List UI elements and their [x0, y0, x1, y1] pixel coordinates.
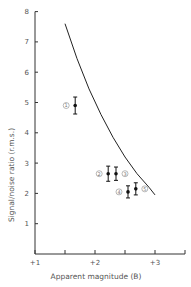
data-point-4: 4	[116, 186, 130, 198]
svg-text:2: 2	[98, 171, 101, 177]
data-points: 12345	[63, 97, 148, 198]
y-tick-label: 8	[25, 8, 29, 16]
svg-text:1: 1	[65, 102, 68, 108]
y-tick-label: 5	[25, 99, 29, 107]
theoretical-curve	[65, 24, 155, 195]
y-tick-label: 6	[25, 69, 30, 77]
svg-text:4: 4	[117, 189, 120, 195]
data-point-3: 3	[114, 167, 128, 180]
y-axis-title: Signal/noise ratio (r.m.s.)	[7, 128, 16, 222]
data-point-2: 2	[96, 166, 110, 181]
svg-text:5: 5	[143, 186, 146, 192]
svg-text:3: 3	[123, 171, 126, 177]
axes	[35, 12, 185, 254]
y-tick-label: 2	[25, 190, 29, 198]
data-point-1: 1	[63, 97, 77, 114]
chart: 12345678+1+2+3 12345 Apparent magnitude …	[0, 0, 191, 287]
y-tick-label: 4	[25, 129, 30, 137]
x-axis-title: Apparent magnitude (B)	[51, 272, 142, 281]
y-tick-label: 1	[25, 220, 29, 228]
x-tick-label: +3	[150, 259, 160, 267]
y-tick-label: 3	[25, 160, 29, 168]
y-tick-label: 7	[25, 38, 29, 46]
tick-labels: 12345678+1+2+3	[25, 8, 161, 267]
x-tick-label: +2	[90, 259, 100, 267]
x-tick-label: +1	[30, 259, 40, 267]
data-point-5: 5	[134, 183, 148, 195]
